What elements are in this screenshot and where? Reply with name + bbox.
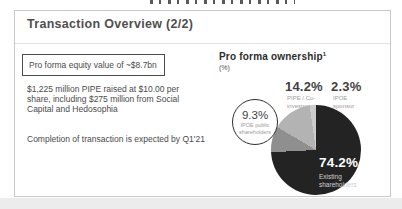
- cropped-text-remnant: [150, 0, 295, 4]
- slide-title: Transaction Overview (2/2): [27, 17, 193, 31]
- page-background-strip: [0, 198, 402, 209]
- completion-paragraph: Completion of transaction is expected by…: [27, 134, 205, 144]
- existing-slice-label: Existing shareholders: [319, 173, 357, 189]
- pipe-raise-paragraph: $1,225 million PIPE raised at $10.00 per…: [27, 84, 205, 115]
- slide-card: Transaction Overview (2/2) Pro forma equ…: [14, 10, 391, 197]
- footnote-marker: 1: [323, 51, 327, 57]
- title-divider: [15, 43, 390, 44]
- public-shareholders-callout: 9.3% IPOE public shareholders: [232, 99, 278, 145]
- existing-slice-percentage: 74.2%: [319, 155, 358, 170]
- chart-unit-label: (%): [219, 64, 230, 71]
- sponsor-slice-label: IPOE sponsor: [333, 95, 354, 110]
- public-slice-percentage: 9.3%: [242, 109, 268, 121]
- chart-title: Pro forma ownership1: [219, 51, 326, 62]
- equity-value-highlight-box: Pro forma equity value of ~$8.7bn: [22, 54, 165, 76]
- public-slice-label: IPOE public shareholders: [239, 122, 271, 135]
- sponsor-slice-percentage: 2.3%: [331, 79, 361, 94]
- chart-title-text: Pro forma ownership: [219, 51, 323, 62]
- pipe-slice-percentage: 14.2%: [285, 79, 323, 94]
